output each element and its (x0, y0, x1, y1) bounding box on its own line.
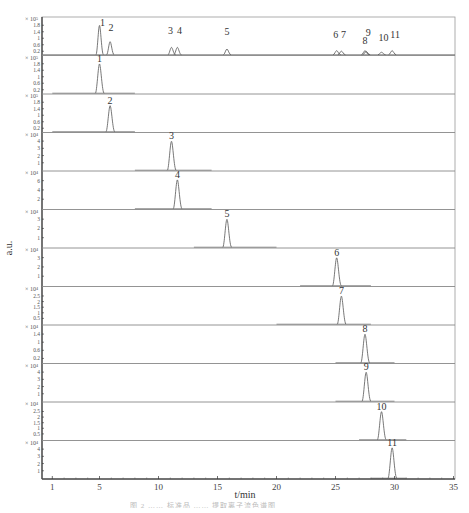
panel-compound-7: × 10⁴2.521.510.57 (25, 285, 455, 325)
peak-label: 5 (224, 208, 229, 219)
y-tick-label: 0.6 (33, 80, 40, 86)
y-exponent-label: × 10⁴ (25, 401, 38, 407)
peak-11 (388, 448, 397, 478)
y-tick-label: 1.4 (33, 106, 40, 112)
x-tick-label: 25 (331, 482, 341, 492)
peak-5 (223, 219, 232, 247)
panel-compound-3: × 10⁴43213 (25, 130, 455, 171)
peak-5 (223, 49, 230, 55)
peak-4 (173, 180, 182, 209)
y-tick-label: 0.2 (33, 87, 40, 93)
peak-label: 6 (334, 247, 339, 258)
peak-8 (361, 334, 370, 362)
y-exponent-label: × 10⁵ (25, 16, 38, 22)
x-tick-label: 35 (449, 482, 459, 492)
y-tick-label: 0.2 (33, 48, 40, 54)
y-axis-title: a.u. (3, 241, 14, 255)
y-tick-label: 2 (37, 264, 40, 270)
x-tick-label: 20 (272, 482, 282, 492)
y-tick-label: 1 (37, 74, 40, 80)
panel-compound-5: × 10⁴3215 (25, 208, 455, 248)
y-exponent-label: × 10⁴ (25, 363, 38, 369)
y-tick-label: 2 (37, 196, 40, 202)
peak-label: 1 (100, 17, 105, 28)
y-tick-label: 4 (37, 138, 40, 144)
panel-mixture: × 10⁵1.81.410.60.21234567891011 (25, 16, 455, 56)
panel-compound-4: × 10⁴6424 (25, 169, 455, 210)
y-tick-label: 1 (37, 391, 40, 397)
peak-label: 3 (169, 130, 174, 141)
x-axis-title: t/min (234, 489, 255, 500)
peak-4 (174, 47, 181, 54)
y-tick-label: 3 (37, 255, 40, 261)
y-tick-label: 2 (37, 153, 40, 159)
y-exponent-label: × 10⁵ (25, 55, 38, 61)
y-tick-label: 1 (37, 339, 40, 345)
y-exponent-label: × 10⁴ (25, 209, 38, 215)
panel-compound-9: × 10⁴43219 (25, 361, 455, 402)
y-tick-label: 0.6 (33, 119, 40, 125)
x-tick-label: 10 (154, 482, 164, 492)
y-tick-label: 4 (37, 187, 40, 193)
y-tick-label: 4 (37, 446, 40, 452)
x-tick-label: 15 (213, 482, 223, 492)
y-tick-label: 0.6 (33, 347, 40, 353)
y-tick-label: 3 (37, 145, 40, 151)
y-tick-label: 1.8 (33, 22, 40, 28)
y-tick-label: 2 (37, 461, 40, 467)
y-tick-label: 3 (37, 376, 40, 382)
peak-label: 8 (363, 323, 368, 334)
y-exponent-label: × 10⁴ (25, 132, 38, 138)
y-tick-label: 2 (37, 225, 40, 231)
chart-panels: × 10⁵1.81.410.60.21234567891011× 10⁵1.81… (25, 16, 455, 479)
peak-label: 5 (224, 26, 229, 37)
x-tick-label: 1 (50, 482, 55, 492)
peak-2 (106, 106, 115, 132)
peak-label: 7 (341, 29, 346, 40)
peak-label: 9 (366, 27, 371, 38)
peak-label: 2 (108, 95, 113, 106)
peak-label: 4 (177, 25, 182, 36)
y-tick-label: 1 (37, 468, 40, 474)
peak-label: 6 (333, 29, 338, 40)
panel-compound-8: × 10⁴1.410.60.28 (25, 323, 455, 363)
peak-11 (389, 51, 396, 55)
panel-compound-11: × 10⁴432111 (25, 437, 455, 479)
y-tick-label: 1 (37, 112, 40, 118)
panel-compound-2: × 10⁵1.81.410.60.22 (25, 93, 455, 133)
peak-6 (333, 258, 342, 286)
y-exponent-label: × 10⁴ (25, 247, 38, 253)
y-tick-label: 0.5 (33, 315, 40, 321)
y-exponent-label: × 10⁴ (25, 324, 38, 330)
x-tick-label: 5 (97, 482, 102, 492)
peak-1 (96, 25, 103, 54)
y-tick-label: 1 (37, 160, 40, 166)
panel-compound-6: × 10⁴3216 (25, 247, 455, 287)
peak-label: 3 (168, 25, 173, 36)
peak-7 (337, 296, 346, 324)
y-tick-label: 3 (37, 216, 40, 222)
peak-label: 2 (109, 22, 114, 33)
peak-label: 10 (377, 401, 387, 412)
y-tick-label: 1 (37, 273, 40, 279)
y-exponent-label: × 10⁴ (25, 286, 38, 292)
y-tick-label: 0.2 (33, 355, 40, 361)
peak-9 (362, 372, 371, 401)
peak-2 (107, 42, 114, 55)
y-tick-label: 1 (37, 235, 40, 241)
y-tick-label: 1.4 (33, 67, 40, 73)
peak-3 (167, 141, 176, 170)
peak-label: 7 (339, 285, 344, 296)
peak-1 (95, 64, 104, 93)
y-exponent-label: × 10⁵ (25, 93, 38, 99)
y-tick-label: 0.2 (33, 125, 40, 131)
y-tick-label: 1.4 (33, 331, 40, 337)
chromatogram-chart: × 10⁵1.81.410.60.21234567891011× 10⁵1.81… (0, 0, 469, 513)
y-exponent-label: × 10⁴ (25, 170, 38, 176)
x-tick-label: 30 (390, 482, 400, 492)
y-tick-label: 3 (37, 453, 40, 459)
peak-label: 4 (175, 169, 180, 180)
y-tick-label: 1 (37, 35, 40, 41)
panel-compound-1: × 10⁵1.81.410.60.21 (25, 53, 455, 94)
peak-label: 9 (364, 361, 369, 372)
